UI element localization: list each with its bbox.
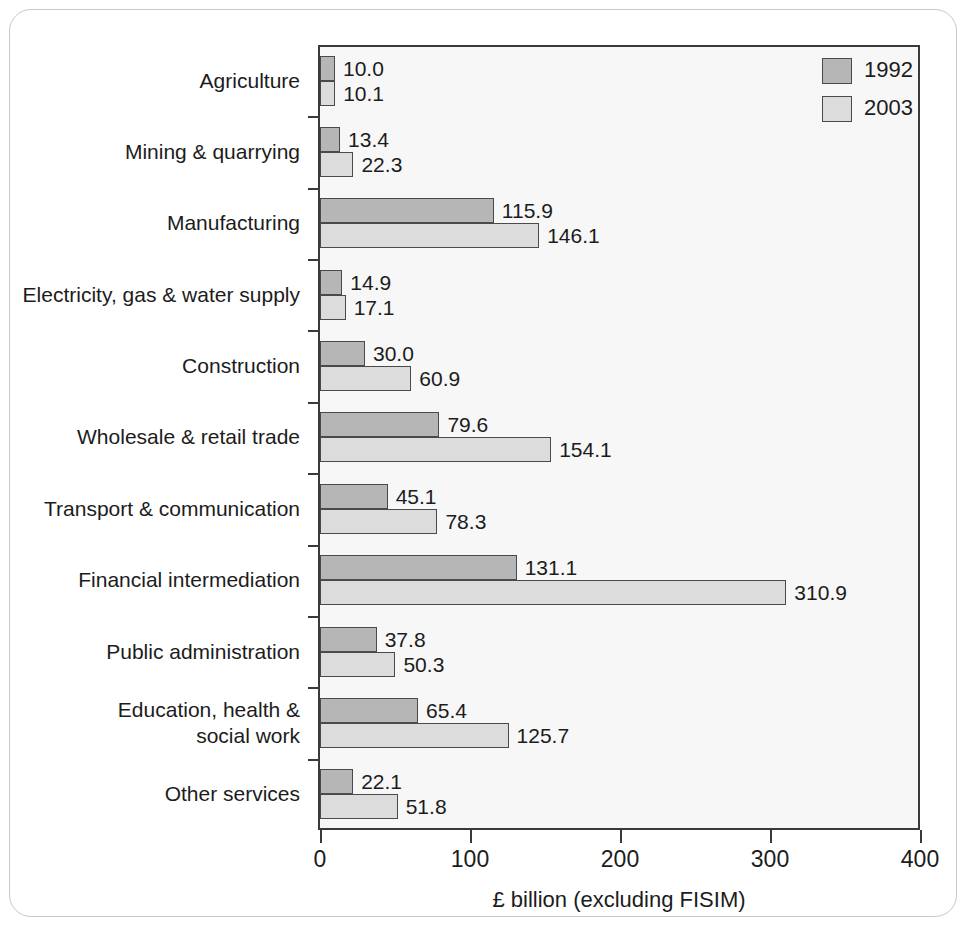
bar-value-label: 60.9 (419, 366, 460, 391)
bar-1992-9[interactable] (320, 627, 377, 652)
bar-value-label: 22.3 (361, 152, 402, 177)
bar-1992-5[interactable] (320, 341, 365, 366)
category-label-line: Public administration (0, 639, 300, 665)
bar-value-label: 310.9 (794, 580, 847, 605)
category-label-line: Financial intermediation (0, 567, 300, 593)
x-axis-tick-label: 400 (875, 846, 965, 873)
legend: 1992 2003 (822, 54, 918, 130)
bar-2003-4[interactable] (320, 295, 346, 320)
x-axis-tick-label: 100 (425, 846, 515, 873)
bar-value-label: 115.9 (502, 198, 553, 223)
bar-value-label: 79.6 (447, 412, 488, 437)
x-axis-tick (770, 830, 772, 843)
bar-value-label: 37.8 (385, 627, 426, 652)
category-label-line: Agriculture (0, 68, 300, 94)
bar-2003-9[interactable] (320, 652, 395, 677)
x-axis-tick-label: 200 (575, 846, 665, 873)
x-axis-tick (320, 830, 322, 843)
bar-1992-4[interactable] (320, 270, 342, 295)
x-axis-tick-label: 300 (725, 846, 815, 873)
bar-2003-6[interactable] (320, 437, 551, 462)
category-label-10: Education, health &social work (0, 697, 300, 749)
bar-1992-3[interactable] (320, 198, 494, 223)
bar-value-label: 22.1 (361, 769, 402, 794)
bar-2003-8[interactable] (320, 580, 786, 605)
bar-2003-11[interactable] (320, 794, 398, 819)
bar-1992-11[interactable] (320, 769, 353, 794)
category-label-4: Electricity, gas & water supply (0, 282, 300, 308)
legend-swatch-1992 (822, 58, 852, 84)
x-axis-tick (620, 830, 622, 843)
bar-2003-1[interactable] (320, 81, 335, 106)
category-label-line: Manufacturing (0, 210, 300, 236)
legend-entry-2003: 2003 (822, 92, 918, 130)
chart-category-row: Financial intermediation131.1310.9 (0, 545, 969, 616)
bar-2003-10[interactable] (320, 723, 509, 748)
chart-figure: Agriculture10.010.1Mining & quarrying13.… (0, 0, 969, 931)
legend-label-1992: 1992 (864, 56, 913, 84)
category-label-3: Manufacturing (0, 210, 300, 236)
category-label-line: social work (0, 723, 300, 749)
category-label-line: Electricity, gas & water supply (0, 282, 300, 308)
bars-layer: Agriculture10.010.1Mining & quarrying13.… (0, 45, 969, 830)
chart-category-row: Construction30.060.9 (0, 330, 969, 401)
bar-2003-5[interactable] (320, 366, 411, 391)
bar-value-label: 17.1 (354, 295, 395, 320)
bar-2003-7[interactable] (320, 509, 437, 534)
bar-1992-8[interactable] (320, 555, 517, 580)
chart-category-row: Education, health &social work65.4125.7 (0, 687, 969, 758)
category-label-8: Financial intermediation (0, 567, 300, 593)
legend-label-2003: 2003 (864, 94, 913, 122)
bar-value-label: 13.4 (348, 127, 389, 152)
chart-category-row: Transport & communication45.178.3 (0, 473, 969, 544)
bar-value-label: 146.1 (547, 223, 600, 248)
bar-1992-7[interactable] (320, 484, 388, 509)
bar-value-label: 10.1 (343, 81, 384, 106)
bar-1992-1[interactable] (320, 56, 335, 81)
bar-value-label: 10.0 (343, 56, 384, 81)
chart-category-row: Manufacturing115.9146.1 (0, 188, 969, 259)
category-label-6: Wholesale & retail trade (0, 424, 300, 450)
category-label-5: Construction (0, 353, 300, 379)
bar-value-label: 131.1 (525, 555, 578, 580)
category-label-line: Wholesale & retail trade (0, 424, 300, 450)
bar-value-label: 154.1 (559, 437, 612, 462)
bar-1992-10[interactable] (320, 698, 418, 723)
bar-value-label: 14.9 (350, 270, 391, 295)
x-axis-tick (470, 830, 472, 843)
category-label-7: Transport & communication (0, 496, 300, 522)
category-label-9: Public administration (0, 639, 300, 665)
bar-value-label: 51.8 (406, 794, 447, 819)
category-label-line: Education, health & (0, 697, 300, 723)
bar-1992-2[interactable] (320, 127, 340, 152)
bar-value-label: 45.1 (396, 484, 437, 509)
bar-1992-6[interactable] (320, 412, 439, 437)
bar-value-label: 125.7 (517, 723, 570, 748)
category-label-11: Other services (0, 781, 300, 807)
bar-2003-2[interactable] (320, 152, 353, 177)
chart-category-row: Wholesale & retail trade79.6154.1 (0, 402, 969, 473)
bar-2003-3[interactable] (320, 223, 539, 248)
category-label-line: Construction (0, 353, 300, 379)
category-label-1: Agriculture (0, 68, 300, 94)
x-axis-title: £ billion (excluding FISIM) (318, 887, 920, 913)
bar-value-label: 50.3 (403, 652, 444, 677)
category-label-line: Mining & quarrying (0, 139, 300, 165)
chart-category-row: Electricity, gas & water supply14.917.1 (0, 259, 969, 330)
category-label-line: Transport & communication (0, 496, 300, 522)
category-label-2: Mining & quarrying (0, 139, 300, 165)
bar-value-label: 65.4 (426, 698, 467, 723)
chart-category-row: Public administration37.850.3 (0, 616, 969, 687)
x-axis-tick-label: 0 (275, 846, 365, 873)
bar-value-label: 78.3 (445, 509, 486, 534)
bar-value-label: 30.0 (373, 341, 414, 366)
x-axis-tick (920, 830, 922, 843)
legend-swatch-2003 (822, 96, 852, 122)
legend-entry-1992: 1992 (822, 54, 918, 92)
chart-category-row: Other services22.151.8 (0, 759, 969, 830)
category-label-line: Other services (0, 781, 300, 807)
